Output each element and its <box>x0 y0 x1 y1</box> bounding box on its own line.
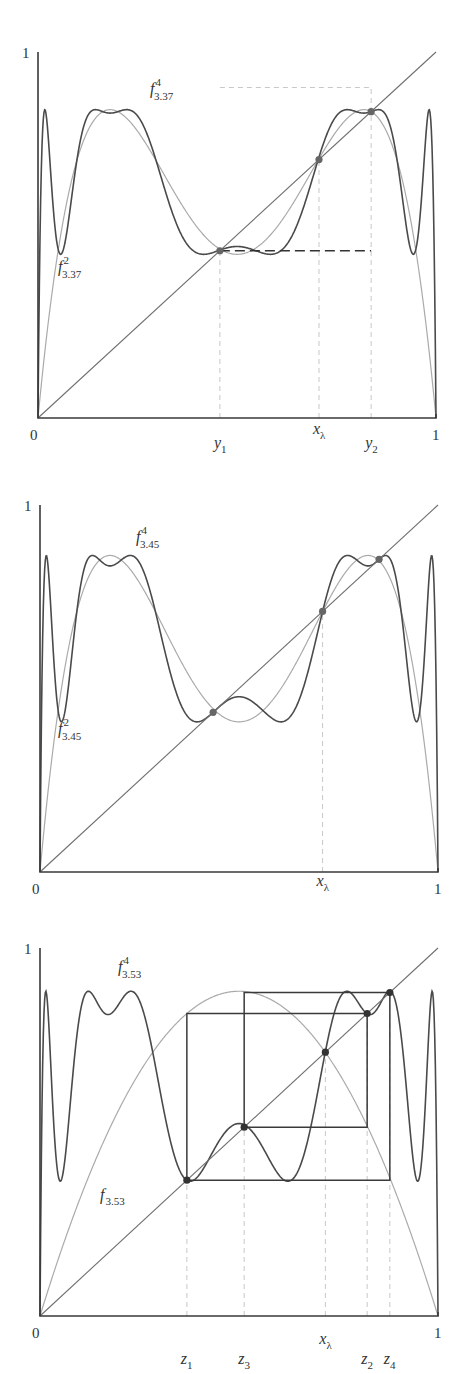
fixed-point-dot <box>368 108 375 115</box>
tick-label-y1: 1 <box>24 498 32 514</box>
curve-f-base <box>38 110 436 418</box>
plot-lambda-3-45: 011f23.45f43.45xλ <box>0 482 464 912</box>
point-label-xλ: xλ <box>318 1330 332 1351</box>
fixed-point-dot <box>386 989 393 996</box>
label-f-base: f3.53 <box>100 1186 125 1207</box>
fixed-point-dot <box>375 556 382 563</box>
fixed-point-dot <box>216 247 223 254</box>
tick-label-y1: 1 <box>22 45 30 61</box>
fixed-point-dot <box>319 608 326 615</box>
label-f-base: f23.45 <box>58 716 82 742</box>
point-label-xλ: xλ <box>316 872 330 893</box>
curve-f-base <box>40 555 438 872</box>
tick-label-x0: 0 <box>30 427 38 443</box>
diagonal-line <box>38 52 436 418</box>
label-f4: f43.37 <box>150 76 174 102</box>
tick-label-x1: 1 <box>434 1325 442 1341</box>
label-f4: f43.53 <box>118 954 142 980</box>
tick-label-x0: 0 <box>32 881 40 897</box>
fixed-point-dot <box>364 1010 371 1017</box>
point-label-z1: z1 <box>180 1350 193 1371</box>
tick-label-y1: 1 <box>24 941 32 957</box>
chart-canvas: 011f23.45f43.45xλ <box>0 482 464 912</box>
point-label-z3: z3 <box>237 1350 250 1371</box>
point-label-z4: z4 <box>383 1350 396 1371</box>
tick-label-x1: 1 <box>432 427 440 443</box>
curve-f4 <box>40 991 438 1316</box>
fixed-point-dot <box>210 709 217 716</box>
curve-f4 <box>38 110 436 418</box>
point-label-z2: z2 <box>360 1350 373 1371</box>
chart-canvas: 011f23.37f43.37y1xλy2 <box>0 30 464 462</box>
fixed-point-dot <box>315 156 322 163</box>
plot-lambda-3-53: 011f3.53f43.53z1z3xλz2z4 <box>0 924 464 1374</box>
curve-f-base <box>40 991 438 1316</box>
diagonal-line <box>40 948 438 1316</box>
point-label-y2: y2 <box>363 434 378 455</box>
tick-label-x1: 1 <box>434 881 442 897</box>
chart-canvas: 011f3.53f43.53z1z3xλz2z4 <box>0 924 464 1374</box>
fixed-point-dot <box>183 1177 190 1184</box>
point-label-y1: y1 <box>212 434 227 455</box>
plot-lambda-3-37: 011f23.37f43.37y1xλy2 <box>0 30 464 462</box>
curve-f4 <box>40 555 438 872</box>
fixed-point-dot <box>241 1124 248 1131</box>
label-f-base: f23.37 <box>58 254 82 280</box>
point-label-xλ: xλ <box>312 420 326 441</box>
fixed-point-dot <box>322 1049 329 1056</box>
label-f4: f43.45 <box>136 524 160 550</box>
tick-label-x0: 0 <box>32 1325 40 1341</box>
